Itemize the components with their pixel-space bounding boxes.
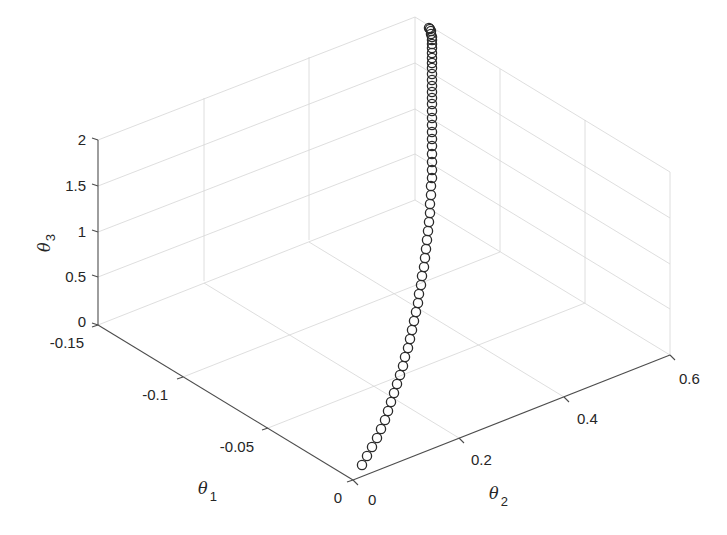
data-point-marker bbox=[413, 298, 422, 307]
z-axis-label-sub: 3 bbox=[43, 234, 58, 241]
theta2-tick-0-4: 0.4 bbox=[577, 410, 598, 427]
data-point-marker bbox=[386, 397, 395, 406]
z-tick-0: 0 bbox=[78, 313, 86, 330]
data-point-marker bbox=[372, 433, 381, 442]
data-point-marker bbox=[409, 316, 418, 325]
data-point-marker bbox=[424, 217, 433, 226]
data-point-marker bbox=[414, 289, 423, 298]
theta2-tick-0-2: 0.2 bbox=[471, 451, 492, 468]
svg-text:θ3: θ3 bbox=[35, 234, 58, 252]
theta1-tick-m01: -0.1 bbox=[142, 386, 168, 403]
z-axis-label-theta: θ bbox=[35, 242, 54, 252]
data-point-marker bbox=[419, 262, 428, 271]
theta2-axis-label-theta: θ bbox=[489, 484, 499, 503]
theta2-axis-label-sub: 2 bbox=[501, 494, 508, 509]
data-point-marker bbox=[376, 424, 385, 433]
theta1-tick-m015: -0.15 bbox=[50, 334, 84, 351]
data-point-marker bbox=[416, 280, 425, 289]
theta1-axis-label: θ1 bbox=[198, 479, 217, 504]
floor-grid bbox=[98, 200, 585, 438]
theta2-tick-0: 0 bbox=[368, 491, 376, 508]
data-point-marker bbox=[407, 325, 416, 334]
z-tick-2: 2 bbox=[78, 131, 86, 148]
theta2-axis-label: θ2 bbox=[489, 484, 508, 509]
back-right-wall-grid bbox=[415, 17, 670, 355]
theta1-axis-label-theta: θ bbox=[198, 479, 208, 498]
data-point-marker bbox=[425, 199, 434, 208]
data-point-marker bbox=[367, 442, 376, 451]
data-point-marker bbox=[421, 244, 430, 253]
data-point-marker bbox=[405, 334, 414, 343]
data-series-trajectory bbox=[357, 23, 436, 469]
theta1-tick-labels: -0.15 -0.1 -0.05 0 bbox=[50, 334, 342, 506]
data-point-marker bbox=[420, 253, 429, 262]
svg-text:θ2: θ2 bbox=[489, 484, 508, 509]
data-point-marker bbox=[383, 406, 392, 415]
data-point-marker bbox=[357, 460, 366, 469]
data-point-marker bbox=[423, 226, 432, 235]
theta1-axis-line bbox=[98, 325, 353, 480]
theta1-tick-0: 0 bbox=[334, 489, 342, 506]
data-point-marker bbox=[389, 388, 398, 397]
data-point-marker bbox=[398, 361, 407, 370]
z-tick-1: 1 bbox=[78, 223, 86, 240]
data-point-marker bbox=[422, 235, 431, 244]
data-point-marker bbox=[417, 271, 426, 280]
z-tick-1-5: 1.5 bbox=[65, 177, 86, 194]
theta1-axis-label-sub: 1 bbox=[210, 489, 217, 504]
data-point-marker bbox=[400, 352, 409, 361]
data-point-marker bbox=[411, 307, 420, 316]
z-tick-labels: 2 1.5 1 0.5 0 bbox=[65, 131, 86, 330]
theta2-tick-labels: 0 0.2 0.4 0.6 bbox=[368, 370, 700, 508]
theta2-axis-line bbox=[353, 355, 670, 480]
back-left-wall-grid bbox=[98, 17, 415, 281]
data-point-marker bbox=[403, 343, 412, 352]
data-point-marker bbox=[426, 190, 435, 199]
plot-area: 2 1.5 1 0.5 0 -0.15 -0.1 -0.05 0 0 0.2 0… bbox=[0, 0, 727, 535]
svg-text:θ1: θ1 bbox=[198, 479, 217, 504]
z-tick-0-5: 0.5 bbox=[65, 268, 86, 285]
data-point-marker bbox=[380, 415, 389, 424]
z-axis-label: θ3 bbox=[35, 234, 58, 252]
data-point-marker bbox=[392, 379, 401, 388]
theta2-tick-0-6: 0.6 bbox=[679, 370, 700, 387]
data-point-marker bbox=[362, 451, 371, 460]
theta1-tick-m005: -0.05 bbox=[220, 438, 254, 455]
data-point-marker bbox=[425, 208, 434, 217]
